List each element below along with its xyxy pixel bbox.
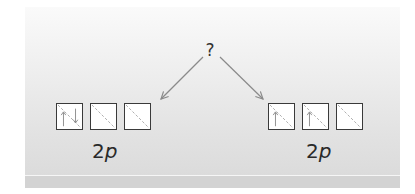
electron-up-arrow-icon (61, 112, 66, 126)
question-mark-label: ? (203, 40, 217, 60)
diagram-panel (25, 7, 400, 188)
orbital-box (124, 103, 151, 130)
orbital-box (268, 103, 295, 130)
left-orbital-label: 2p (92, 140, 117, 162)
right-orbital-label: 2p (306, 140, 331, 162)
electron-up-arrow-icon (273, 112, 278, 126)
orbital-box (90, 103, 117, 130)
left-orbital-diagram (56, 103, 151, 130)
electron-down-arrow-icon (73, 109, 78, 123)
electron-up-arrow-icon (307, 112, 312, 126)
bottom-band (25, 176, 400, 188)
orbital-box (302, 103, 329, 130)
orbital-box (56, 103, 83, 130)
right-orbital-diagram (268, 103, 363, 130)
orbital-box (336, 103, 363, 130)
